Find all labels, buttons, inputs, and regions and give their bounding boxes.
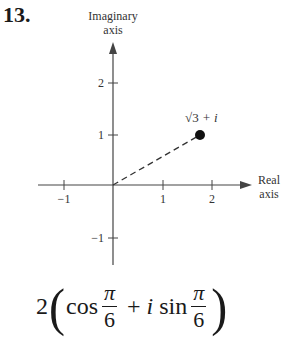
point-label: √3 + i bbox=[185, 110, 218, 125]
fraction-numerator: π bbox=[102, 282, 117, 306]
fraction-denominator: 6 bbox=[191, 306, 206, 331]
formula-imaginary-unit: i bbox=[147, 293, 154, 320]
complex-plane-diagram: Imaginary axis Real axis −1 1 2 2 1 −1 √… bbox=[0, 0, 300, 280]
x-tick-label: 1 bbox=[160, 192, 166, 206]
y-tick-label: 2 bbox=[98, 76, 104, 90]
fraction-denominator: 6 bbox=[102, 306, 117, 331]
formula-coefficient: 2 bbox=[36, 293, 48, 320]
y-axis-arrow-icon bbox=[109, 42, 117, 54]
fraction-numerator: π bbox=[191, 282, 206, 306]
formula-plus: + bbox=[127, 293, 141, 320]
polar-form-formula: 2 ( cos π 6 + i sin π 6 ) bbox=[36, 282, 228, 331]
y-tick-label: 1 bbox=[98, 128, 104, 142]
formula-close-paren: ) bbox=[211, 280, 227, 333]
formula-open-paren: ( bbox=[49, 280, 65, 333]
formula-sin: sin bbox=[159, 293, 187, 320]
complex-point bbox=[195, 130, 205, 140]
fraction-pi-over-6: π 6 bbox=[191, 282, 206, 331]
formula-cos: cos bbox=[66, 293, 98, 320]
x-tick-label: 2 bbox=[209, 192, 215, 206]
y-tick-label: −1 bbox=[91, 231, 104, 245]
y-axis-label-line2: axis bbox=[103, 23, 123, 37]
x-axis-label-line2: axis bbox=[259, 187, 279, 201]
vector-dashed-line bbox=[113, 135, 200, 185]
fraction-pi-over-6: π 6 bbox=[102, 282, 117, 331]
x-axis-arrow-icon bbox=[240, 181, 252, 189]
y-axis-label: Imaginary bbox=[88, 9, 137, 23]
x-tick-label: −1 bbox=[58, 192, 71, 206]
x-axis-label: Real bbox=[258, 173, 281, 187]
